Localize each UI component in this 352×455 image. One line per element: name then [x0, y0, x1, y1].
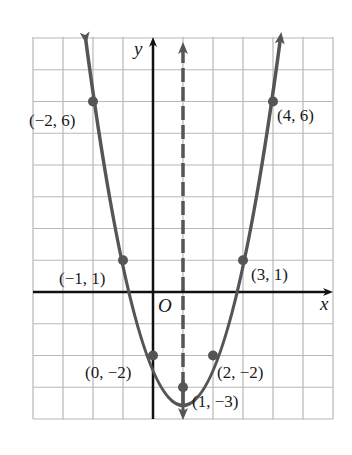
label-point-1-m3: (1, −3)	[192, 392, 238, 411]
label-point-m1-1: (−1, 1)	[59, 269, 105, 288]
point-m1-1	[118, 255, 128, 265]
point-0-m2	[148, 351, 158, 361]
origin-label: O	[158, 295, 172, 316]
label-point-0-m2: (0, −2)	[85, 363, 131, 382]
point-2-m2	[208, 351, 218, 361]
label-point-4-6: (4, 6)	[277, 106, 314, 125]
label-point-2-m2: (2, −2)	[217, 363, 263, 382]
point-3-1	[238, 255, 248, 265]
point-1-m3	[178, 382, 188, 392]
label-point-m2-6: (−2, 6)	[29, 111, 75, 130]
point-4-6	[268, 97, 278, 107]
label-point-3-1: (3, 1)	[251, 265, 288, 284]
x-axis-label: x	[319, 293, 329, 314]
parabola-graph: y x O (−2, 6) (4, 6) (−1, 1) (3, 1) (0, …	[0, 0, 352, 455]
point-m2-6	[88, 97, 98, 107]
y-axis-label: y	[132, 38, 143, 59]
